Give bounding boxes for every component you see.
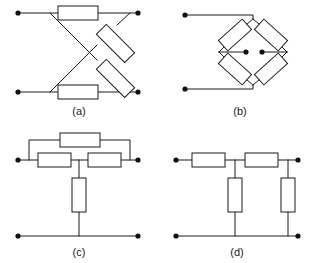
- resistor-d-shunt-left: [228, 178, 242, 212]
- wire-b-top-lead: [185, 15, 253, 19]
- resistor-b-bottom-left: [218, 53, 251, 85]
- terminal-a-bottom-left: [15, 89, 20, 94]
- wire-diagonal-a2-upper: [117, 13, 130, 25]
- terminal-b-bottom-left: [182, 86, 187, 91]
- resistor-a-top-series: [58, 6, 98, 20]
- panel-c-label: (c): [73, 246, 86, 258]
- terminal-b-center-left: [243, 49, 248, 54]
- panel-d-label: (d): [230, 246, 243, 258]
- terminal-d-top-left: [173, 157, 178, 162]
- resistor-a-diagonal-upper: [96, 24, 134, 62]
- terminal-c-bottom-left: [15, 233, 20, 238]
- resistor-b-top-right: [254, 19, 287, 51]
- resistor-b-top-left: [218, 19, 251, 51]
- panel-c: (c): [15, 133, 140, 258]
- circuit-diagram-canvas: (a): [0, 0, 316, 263]
- terminal-d-bottom-right: [295, 233, 300, 238]
- panel-a: (a): [15, 6, 140, 117]
- resistor-c-bridge: [60, 133, 100, 147]
- terminal-d-bottom-left: [173, 233, 178, 238]
- panel-a-label: (a): [72, 105, 85, 117]
- terminal-b-center-right: [259, 49, 264, 54]
- resistor-d-series-right: [245, 153, 278, 167]
- terminal-b-top-left: [182, 12, 187, 17]
- resistor-a-bottom-series: [58, 85, 98, 99]
- resistor-c-series-left: [38, 153, 71, 167]
- terminal-c-top-left: [15, 157, 20, 162]
- terminal-d-top-right: [295, 157, 300, 162]
- resistor-c-series-right: [88, 153, 121, 167]
- wire-b-bottom-lead: [185, 85, 253, 89]
- terminal-c-bottom-right: [135, 233, 140, 238]
- resistor-d-shunt-right: [281, 178, 295, 212]
- panel-d: (d): [173, 153, 300, 258]
- terminal-a-top-right: [135, 10, 140, 15]
- panel-b: (b): [182, 12, 287, 117]
- terminal-a-top-left: [15, 10, 20, 15]
- terminal-a-bottom-right: [135, 89, 140, 94]
- terminal-c-top-right: [135, 157, 140, 162]
- circuit-diagram-sheet: (a): [0, 0, 316, 263]
- resistor-b-bottom-right: [254, 53, 287, 85]
- panel-b-label: (b): [233, 105, 246, 117]
- resistor-d-series-left: [192, 153, 225, 167]
- resistor-c-shunt: [72, 178, 86, 212]
